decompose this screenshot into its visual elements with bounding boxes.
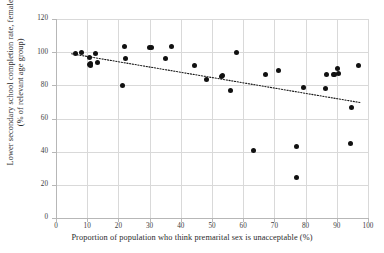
x-tick-label: 90 [324,223,350,230]
x-tick-mark [181,218,182,222]
y-tick-mark [52,52,56,53]
x-tick-mark [118,218,119,222]
x-tick-mark [87,218,88,222]
y-tick-label: 0 [22,214,48,221]
data-point [123,56,128,61]
data-point [122,44,127,49]
trendline [56,19,368,218]
plot-area [56,19,368,218]
x-tick-mark [368,218,369,222]
y-tick-mark [52,19,56,20]
x-tick-label: 0 [43,223,69,230]
data-point [192,63,197,68]
x-tick-label: 50 [199,223,225,230]
data-point [87,55,92,60]
y-tick-label: 20 [22,181,48,188]
x-tick-mark [243,218,244,222]
y-tick-mark [52,119,56,120]
x-tick-mark [212,218,213,222]
data-point [220,73,225,78]
data-point [324,72,329,77]
data-point [263,72,268,77]
x-tick-label: 60 [230,223,256,230]
y-axis-title-line2: (% of relevant age group) [16,0,26,172]
x-tick-label: 10 [74,223,100,230]
x-tick-mark [337,218,338,222]
y-axis-title: Lower secondary school completion rate, … [6,0,27,172]
x-tick-label: 100 [355,223,381,230]
x-tick-label: 30 [137,223,163,230]
data-point [301,85,306,90]
y-tick-mark [52,85,56,86]
data-point [73,51,78,56]
data-point [276,68,281,73]
y-axis-line [56,19,57,219]
x-tick-mark [150,218,151,222]
x-tick-mark [306,218,307,222]
x-tick-mark [56,218,57,222]
data-point [79,50,84,55]
y-tick-mark [52,152,56,153]
y-tick-mark [52,185,56,186]
scatter-chart: 020406080100120 0102030405060708090100 P… [0,0,384,253]
data-point [348,141,353,146]
data-point [95,60,100,65]
data-point [120,83,125,88]
data-point [294,175,299,180]
gridline-vertical [368,19,369,218]
x-tick-label: 80 [293,223,319,230]
x-tick-label: 40 [168,223,194,230]
y-axis-title-line1: Lower secondary school completion rate, … [6,0,16,172]
x-tick-label: 20 [105,223,131,230]
x-tick-label: 70 [261,223,287,230]
data-point [169,44,174,49]
x-tick-mark [274,218,275,222]
x-axis-title: Proportion of population who think prema… [0,233,384,242]
data-point [204,77,209,82]
